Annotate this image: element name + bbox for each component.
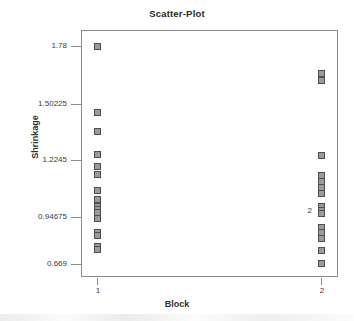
plot-area <box>81 30 338 277</box>
data-point-marker <box>318 210 325 217</box>
data-point-marker <box>94 232 101 239</box>
data-point-marker <box>318 152 325 159</box>
data-point-marker <box>318 77 325 84</box>
data-point-marker <box>94 43 101 50</box>
y-axis-tick-label: 0.669 <box>7 259 67 268</box>
scatter-plot-figure: Scatter-Plot Shrinkage Block 1.78 1.5022… <box>0 0 354 321</box>
data-point-marker <box>94 151 101 158</box>
y-axis-tick-label: 1.2245 <box>7 155 67 164</box>
x-axis-title: Block <box>0 299 354 309</box>
data-point-marker <box>318 190 325 197</box>
scan-artifact <box>0 314 354 321</box>
data-point-marker <box>94 171 101 178</box>
x-axis-tick-label: 1 <box>83 286 113 295</box>
data-point-marker <box>94 246 101 253</box>
y-axis-tick-label: 1.50225 <box>7 99 67 108</box>
data-point-marker <box>94 196 101 203</box>
x-axis-tick <box>97 278 98 285</box>
y-axis-tick <box>71 160 81 161</box>
chart-title: Scatter-Plot <box>0 8 354 19</box>
x-axis-tick-label: 2 <box>307 286 337 295</box>
y-axis-tick <box>71 217 81 218</box>
y-axis-tick-label: 0.94675 <box>7 212 67 221</box>
data-point-marker <box>94 163 101 170</box>
data-point-marker <box>318 260 325 267</box>
data-point-marker <box>94 128 101 135</box>
point-count-annotation: 2 <box>298 206 312 215</box>
y-axis-tick <box>71 104 81 105</box>
data-point-marker <box>94 187 101 194</box>
data-point-marker <box>318 247 325 254</box>
y-axis-tick <box>71 46 81 47</box>
x-axis-tick <box>321 278 322 285</box>
y-axis-tick-label: 1.78 <box>7 41 67 50</box>
data-point-marker <box>94 109 101 116</box>
data-point-marker <box>318 235 325 242</box>
y-axis-tick <box>71 264 81 265</box>
data-point-marker <box>94 215 101 222</box>
